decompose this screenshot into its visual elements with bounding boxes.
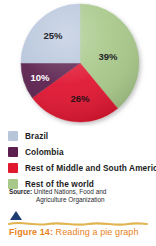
source-text-first: United Nations, Food and [32, 188, 106, 195]
source-kicker: Source: [9, 188, 32, 195]
figure-caption-text: Reading a pie graph [53, 227, 139, 237]
pie-chart-svg: 39%26%10%25% [0, 0, 156, 126]
pie-slice-label: 39% [98, 51, 118, 62]
figure-caption-block: Figure 14: Reading a pie graph [0, 208, 156, 246]
legend-label-brazil: Brazil [25, 131, 48, 141]
source-line-first: Source: United Nations, Food and [9, 188, 151, 196]
legend-item-brazil: Brazil [8, 128, 156, 144]
figure-caption: Figure 14: Reading a pie graph [9, 227, 155, 237]
pie-slice-label: 25% [43, 30, 63, 41]
pie-slice-label: 10% [30, 72, 50, 83]
legend-item-colombia: Colombia [8, 144, 156, 160]
wavy-rule-icon [8, 220, 148, 227]
source-note: Source: United Nations, Food and Agricul… [9, 188, 151, 204]
pie-slice-label: 26% [70, 93, 90, 104]
legend-swatch-brazil [8, 131, 18, 141]
legend-label-rest-americas: Rest of Middle and South America [25, 163, 156, 173]
legend-item-rest-americas: Rest of Middle and South America [8, 160, 156, 176]
source-line-second: Agriculture Organization [9, 196, 151, 204]
pie-chart: 39%26%10%25% [0, 0, 156, 126]
legend-label-colombia: Colombia [25, 147, 64, 157]
chart-legend: Brazil Colombia Rest of Middle and South… [8, 128, 156, 192]
triangle-up-icon [10, 211, 22, 220]
legend-swatch-rest-americas [8, 163, 18, 173]
legend-swatch-colombia [8, 147, 18, 157]
pie-gloss-overlay [21, 4, 139, 122]
figure-caption-kicker: Figure 14: [9, 227, 53, 237]
